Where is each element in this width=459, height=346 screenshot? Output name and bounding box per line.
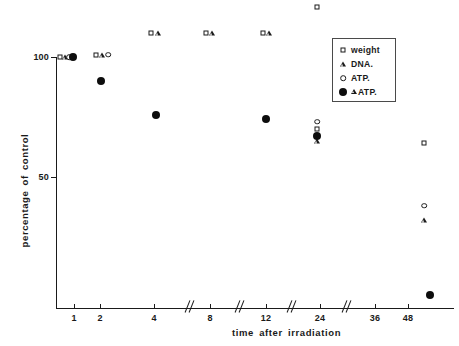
y-axis-line — [56, 57, 57, 309]
x-tick-mark — [266, 304, 267, 308]
axis-break-mark — [342, 300, 352, 314]
legend-item-1[interactable]: DNA. — [333, 57, 395, 71]
x-axis-title: time after irradiation — [232, 327, 341, 338]
legend-marker-circle-filled — [339, 88, 347, 96]
legend-symbol-square-open — [333, 43, 351, 57]
x-tick-mark — [100, 304, 101, 308]
y-tick-mark — [51, 177, 57, 178]
data-point-circle-filled — [152, 111, 160, 119]
legend-item-3[interactable]: ATP. — [333, 85, 395, 99]
legend-label: weight — [351, 45, 380, 55]
data-point-triangle-open — [155, 31, 161, 36]
data-point-square-open — [149, 31, 154, 36]
data-point-circle-open — [314, 119, 320, 125]
data-point-circle-filled — [69, 53, 77, 61]
legend-label: DNA. — [351, 59, 373, 69]
x-tick-label: 12 — [261, 313, 271, 323]
data-point-circle-filled — [313, 132, 321, 140]
x-tick-mark — [408, 304, 409, 308]
axis-break-mark — [185, 300, 195, 314]
data-point-square-open — [204, 31, 209, 36]
legend-symbol-triangle-open — [333, 57, 351, 71]
x-tick-label: 48 — [403, 313, 413, 323]
x-tick-mark — [74, 304, 75, 308]
legend-symbol-circle-filled — [333, 85, 351, 99]
data-point-circle-filled — [97, 77, 105, 85]
x-tick-mark — [375, 304, 376, 308]
axis-break-mark — [235, 300, 245, 314]
plot-area: 124812243648 10050 time after irradiatio… — [0, 0, 459, 346]
x-axis-line — [56, 308, 454, 309]
data-point-square-open — [261, 31, 266, 36]
data-point-triangle-open — [209, 31, 215, 36]
x-tick-label: 36 — [370, 313, 380, 323]
y-tick-label: 50 — [39, 172, 49, 182]
x-tick-label: 8 — [207, 313, 212, 323]
x-tick-mark — [154, 304, 155, 308]
x-tick-label: 24 — [315, 313, 325, 323]
legend-item-2[interactable]: ATP. — [333, 71, 395, 85]
data-point-triangle-open — [266, 31, 272, 36]
chart-legend: weightDNA.ATP.ATP. — [332, 38, 396, 102]
x-tick-label: 2 — [97, 313, 102, 323]
data-point-square-open — [422, 141, 427, 146]
data-point-circle-filled — [262, 115, 270, 123]
legend-label: ATP. — [351, 87, 377, 97]
data-point-square-open — [315, 4, 320, 9]
y-tick-label: 100 — [33, 52, 49, 62]
legend-marker-circle-open — [340, 75, 346, 81]
x-tick-label: 1 — [71, 313, 76, 323]
data-point-circle-filled — [426, 291, 434, 299]
legend-marker-triangle-open — [340, 62, 346, 67]
delta-triangle-icon — [351, 89, 357, 94]
legend-label: ATP. — [351, 73, 370, 83]
data-point-circle-open — [421, 203, 427, 209]
y-tick-mark — [51, 57, 57, 58]
legend-marker-square-open — [341, 48, 346, 53]
y-axis-title: percentage of control — [19, 126, 30, 256]
legend-item-0[interactable]: weight — [333, 43, 395, 57]
x-tick-mark — [210, 304, 211, 308]
axis-break-mark — [287, 300, 297, 314]
data-point-circle-open — [105, 52, 111, 58]
chart-figure: 124812243648 10050 time after irradiatio… — [0, 0, 459, 346]
data-point-square-open — [94, 52, 99, 57]
data-point-triangle-open — [421, 218, 427, 223]
data-point-square-open — [315, 127, 320, 132]
x-tick-label: 4 — [151, 313, 156, 323]
legend-symbol-circle-open — [333, 71, 351, 85]
x-tick-mark — [320, 304, 321, 308]
data-point-triangle-open — [99, 52, 105, 57]
